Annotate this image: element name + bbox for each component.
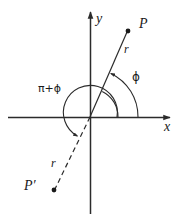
phi-angle-label: ϕ [132, 71, 140, 83]
point-p-prime-dot [52, 188, 57, 193]
polar-coordinates-figure: y x P P′ r r ϕ π+ϕ [0, 0, 185, 221]
radius-segment-to-p-prime [55, 117, 90, 189]
y-axis-label: y [96, 12, 102, 26]
pi-plus-phi-angle-label: π+ϕ [38, 83, 61, 94]
point-p-prime-label: P′ [24, 179, 36, 193]
radius-label-upper: r [124, 43, 129, 55]
radius-label-lower: r [51, 157, 56, 169]
point-p-label: P [139, 17, 148, 31]
x-axis-label: x [164, 120, 170, 134]
radius-segment-to-p [90, 32, 127, 117]
point-p-dot [126, 29, 131, 34]
